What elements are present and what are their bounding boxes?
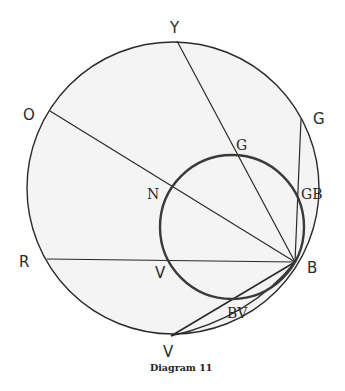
label-R: R — [19, 253, 29, 271]
diagram-11: Y O R V G G N V GB B BV Diagram 11 — [0, 0, 345, 391]
outer-circle — [27, 42, 319, 334]
label-V-outer: V — [163, 343, 174, 361]
label-V-inner: V — [155, 264, 166, 282]
label-N: N — [147, 186, 159, 202]
label-O: O — [23, 106, 35, 124]
diagram-caption: Diagram 11 — [150, 362, 212, 373]
label-B: B — [307, 259, 317, 277]
label-BV: BV — [227, 305, 248, 321]
label-GB: GB — [301, 186, 322, 202]
label-G-outer: G — [313, 110, 325, 128]
label-Y: Y — [169, 19, 180, 37]
label-G-inner: G — [236, 137, 247, 153]
